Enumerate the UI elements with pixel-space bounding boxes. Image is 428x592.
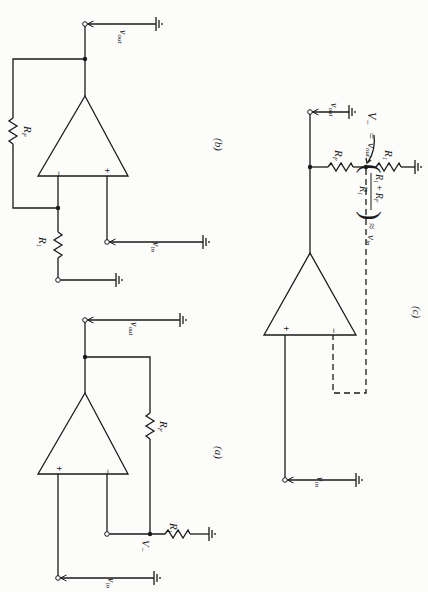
caption-a: (a)	[212, 446, 225, 459]
caption-b: (b)	[212, 138, 225, 151]
resistor-rf	[9, 118, 17, 144]
opamp-triangle	[264, 253, 356, 335]
panel-b: vout RF − + R1	[9, 17, 225, 287]
rf-label: RF	[20, 125, 34, 138]
svg-text:(: (	[356, 164, 387, 173]
panel-c: vout RF R1 + − vin	[264, 103, 423, 487]
ground-icon	[203, 235, 209, 249]
ground-icon	[415, 160, 421, 174]
vout-label: vout	[127, 322, 140, 336]
plus-sign: +	[281, 326, 291, 331]
rf-label: RF	[331, 149, 345, 162]
svg-text:vout: vout	[364, 143, 378, 158]
output-terminal	[83, 318, 88, 323]
ground-icon	[180, 313, 186, 327]
output-terminal	[308, 110, 313, 115]
ground-icon	[116, 273, 122, 287]
opamp-triangle	[38, 393, 128, 474]
minus-sign: −	[329, 328, 339, 333]
vin-label: vin	[104, 578, 117, 588]
resistor-rf	[146, 413, 154, 439]
svg-text:=: =	[366, 132, 378, 139]
r1-label: R1	[381, 149, 395, 160]
svg-text:): )	[356, 211, 387, 220]
input-terminal	[56, 576, 61, 581]
plus-sign: +	[54, 466, 64, 471]
resistor-r1	[54, 232, 62, 258]
input-terminal	[105, 240, 110, 245]
vin-label: vin	[313, 477, 326, 487]
panel-a: vout RF + − R1 V− vin	[38, 313, 225, 588]
ground-icon	[156, 17, 162, 31]
rf-label: RF	[156, 420, 170, 433]
output-terminal	[83, 22, 88, 27]
opamp-figure: vout RF − + R1	[0, 0, 428, 592]
resistor-rf	[328, 163, 353, 171]
svg-text:R1: R1	[357, 185, 369, 195]
ground-icon	[356, 473, 362, 487]
r1-label: R1	[35, 236, 49, 247]
v-minus-label: V−	[138, 540, 152, 552]
ground-icon	[209, 527, 215, 541]
ground-icon	[349, 105, 355, 119]
minus-sign: −	[103, 469, 113, 474]
opamp-triangle	[38, 96, 128, 176]
equation: V− = vout ( R1+RF R1 ) ≈ vin	[356, 112, 387, 246]
r1-label: R1	[166, 522, 180, 533]
svg-text:R1+RF: R1+RF	[373, 173, 385, 203]
svg-text:V−: V−	[363, 112, 379, 125]
dashed-connection	[333, 169, 366, 393]
vin-label: vin	[149, 242, 162, 252]
minus-sign: −	[54, 171, 64, 176]
svg-text:vin: vin	[364, 235, 378, 246]
vout-label: vout	[116, 30, 129, 44]
caption-c: (c)	[410, 306, 423, 319]
plus-sign: +	[102, 168, 112, 173]
svg-text:≈: ≈	[366, 223, 378, 229]
input-terminal	[283, 478, 288, 483]
vout-label: vout	[327, 103, 340, 117]
ground-icon	[154, 571, 160, 585]
v-minus-node	[148, 532, 152, 536]
